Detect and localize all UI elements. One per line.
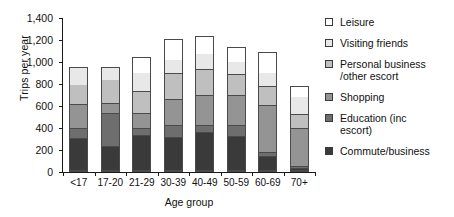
bar-50-59[interactable] (227, 47, 246, 172)
bar-segment-education-inc-escort- (70, 129, 87, 139)
bar-segment-commute-business (102, 147, 119, 171)
legend-item[interactable]: Leisure (325, 16, 451, 28)
legend-swatch-icon (325, 18, 333, 26)
x-axis-tick (189, 172, 190, 176)
legend-label: Commute/business (340, 145, 430, 157)
bar-segment-personal-business-other-escort (228, 75, 245, 95)
bar-segment-leisure (228, 48, 245, 62)
y-axis-tick-label: 200 (35, 145, 53, 156)
bar-segment-personal-business-other-escort (133, 92, 150, 113)
bar-segment-commute-business (70, 139, 87, 171)
bar-segment-visiting-friends (165, 60, 182, 73)
bar-17-20[interactable] (101, 67, 120, 172)
x-axis-tick-label: 50-59 (223, 178, 249, 188)
bar-segment-leisure (259, 53, 276, 73)
bar-segment-education-inc-escort- (102, 114, 119, 147)
bar-segment-commute-business (228, 137, 245, 171)
x-axis-tick-label: 70+ (291, 178, 308, 188)
bar-30-39[interactable] (164, 39, 183, 172)
y-axis-tick (59, 18, 63, 19)
y-axis-tick-label: 400 (35, 123, 53, 134)
x-axis-tick (315, 172, 316, 176)
legend-item[interactable]: Commute/business (325, 145, 451, 157)
bar-60-69[interactable] (258, 52, 277, 172)
bar-segment-education-inc-escort- (228, 126, 245, 136)
x-axis-tick (63, 172, 64, 176)
bar-segment-leisure (196, 37, 213, 54)
bar-segment-personal-business-other-escort (196, 70, 213, 96)
x-axis-tick-label: 21-29 (129, 178, 155, 188)
bar-segment-commute-business (196, 133, 213, 172)
bar-70-[interactable] (290, 86, 309, 172)
legend-item[interactable]: Education (incescort) (325, 112, 451, 136)
chart-root: Trips per year 02004006008001,0001,2001,… (0, 0, 454, 217)
legend-label: Visiting friends (340, 37, 408, 49)
y-axis-tick-label: 0 (47, 167, 53, 178)
bar-segment-education-inc-escort- (133, 129, 150, 137)
bar-segment-visiting-friends (259, 73, 276, 87)
x-axis-tick (95, 172, 96, 176)
y-axis-tick (59, 106, 63, 107)
y-axis-tick (59, 128, 63, 129)
y-axis-tick (59, 150, 63, 151)
legend-swatch-icon (325, 39, 333, 47)
bar-segment-visiting-friends (291, 97, 308, 115)
legend-label: Personal business/other escort (340, 58, 426, 82)
bar-segment-leisure (165, 40, 182, 60)
x-axis-tick (158, 172, 159, 176)
bar-segment-shopping (291, 129, 308, 166)
bar-segment-education-inc-escort- (165, 126, 182, 138)
x-axis-tick-label: <17 (70, 178, 87, 188)
bar-segment-commute-business (291, 169, 308, 171)
bar-segment-shopping (102, 104, 119, 114)
legend-swatch-icon (325, 147, 333, 155)
bar-segment-education-inc-escort- (196, 126, 213, 133)
bar-segment-shopping (196, 96, 213, 126)
x-axis-title: Age group (63, 196, 315, 208)
legend-label: Education (incescort) (340, 112, 407, 136)
bar-segment-visiting-friends (133, 73, 150, 92)
x-axis-tick (126, 172, 127, 176)
y-axis-title: Trips per year (18, 8, 30, 128)
bar-segment-personal-business-other-escort (102, 80, 119, 104)
y-axis-tick (59, 62, 63, 63)
y-axis-tick-label: 1,400 (27, 13, 53, 24)
bar-segment-leisure (291, 87, 308, 97)
legend-swatch-icon (325, 114, 333, 122)
x-axis-tick-label: 30-39 (160, 178, 186, 188)
bar-segment-commute-business (165, 138, 182, 171)
legend-label: Leisure (340, 16, 374, 28)
bar-segment-visiting-friends (228, 62, 245, 75)
bar-segment-visiting-friends (102, 68, 119, 80)
chart-legend: LeisureVisiting friendsPersonal business… (325, 16, 451, 166)
bar-40-49[interactable] (195, 36, 214, 172)
bar--17[interactable] (69, 67, 88, 172)
bar-segment-commute-business (259, 157, 276, 171)
bar-segment-commute-business (133, 136, 150, 171)
bar-segment-visiting-friends (70, 68, 87, 86)
y-axis-tick-label: 800 (35, 79, 53, 90)
bar-segment-shopping (133, 114, 150, 129)
y-axis-tick-label: 600 (35, 101, 53, 112)
bar-segment-shopping (228, 96, 245, 127)
bar-segment-personal-business-other-escort (165, 74, 182, 100)
y-axis-tick-label: 1,000 (27, 57, 53, 68)
bar-21-29[interactable] (132, 57, 151, 172)
plot-area: 02004006008001,0001,2001,400<1717-2021-2… (63, 18, 315, 172)
x-axis-tick (252, 172, 253, 176)
bar-segment-shopping (165, 100, 182, 126)
bar-segment-leisure (133, 58, 150, 73)
x-axis-tick-label: 60-69 (255, 178, 281, 188)
legend-item[interactable]: Shopping (325, 91, 451, 103)
bar-segment-visiting-friends (196, 54, 213, 69)
legend-item[interactable]: Visiting friends (325, 37, 451, 49)
legend-swatch-icon (325, 60, 333, 68)
bar-segment-personal-business-other-escort (259, 87, 276, 106)
legend-item[interactable]: Personal business/other escort (325, 58, 451, 82)
bar-segment-shopping (70, 105, 87, 129)
bar-segment-personal-business-other-escort (291, 115, 308, 129)
x-axis-tick-label: 17-20 (97, 178, 123, 188)
legend-label: Shopping (340, 91, 384, 103)
bar-segment-shopping (259, 106, 276, 153)
x-axis-tick (284, 172, 285, 176)
